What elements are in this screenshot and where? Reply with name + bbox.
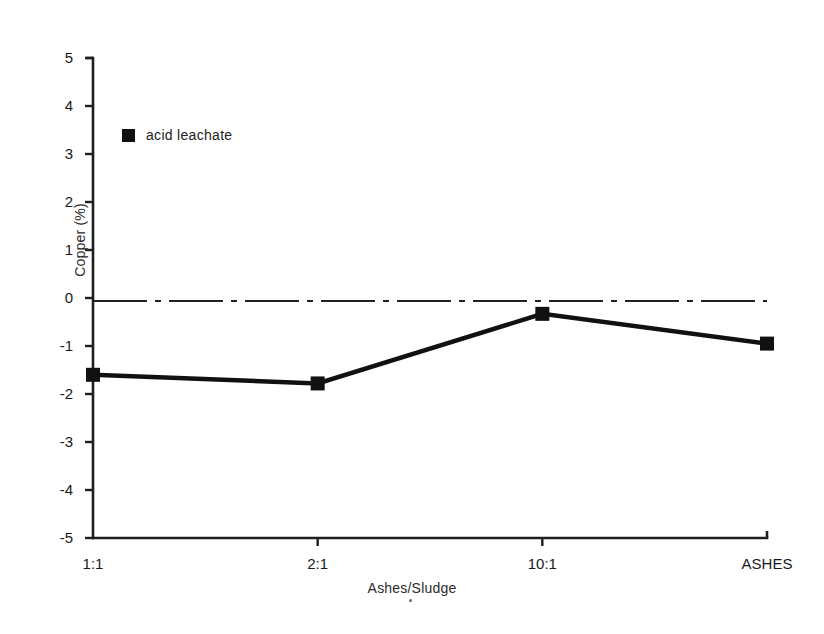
y-tick-label: -2 — [39, 386, 73, 401]
chart-plot-area — [0, 0, 824, 634]
scan-artifact-dot — [409, 599, 412, 602]
y-tick-label: -1 — [39, 338, 73, 353]
y-tick-label: 0 — [39, 290, 73, 305]
y-tick-label: 2 — [39, 194, 73, 209]
data-point-marker — [535, 307, 549, 321]
x-tick-label: 10:1 — [482, 556, 602, 571]
x-tick-label: 1:1 — [33, 556, 153, 571]
y-axis-title: Copper (%) — [72, 170, 88, 310]
y-tick-label: 5 — [39, 50, 73, 65]
chart-figure: Copper (%) Ashes/Sludge 543210-1-2-3-4-5… — [0, 0, 824, 634]
x-axis-title: Ashes/Sludge — [0, 580, 824, 596]
y-tick-label: 3 — [39, 146, 73, 161]
y-tick-label: -5 — [39, 530, 73, 545]
data-point-marker — [311, 376, 325, 390]
data-point-marker — [760, 337, 774, 351]
series-line-acid-leachate — [93, 314, 767, 384]
x-tick-label: 2:1 — [258, 556, 378, 571]
y-tick-label: -3 — [39, 434, 73, 449]
chart-legend: acid leachate — [122, 125, 272, 149]
legend-label: acid leachate — [146, 127, 232, 143]
x-tick-label: ASHES — [707, 556, 824, 571]
y-tick-label: -4 — [39, 482, 73, 497]
data-point-marker — [86, 368, 100, 382]
legend-marker-square — [122, 129, 135, 142]
y-tick-label: 1 — [39, 242, 73, 257]
y-tick-label: 4 — [39, 98, 73, 113]
